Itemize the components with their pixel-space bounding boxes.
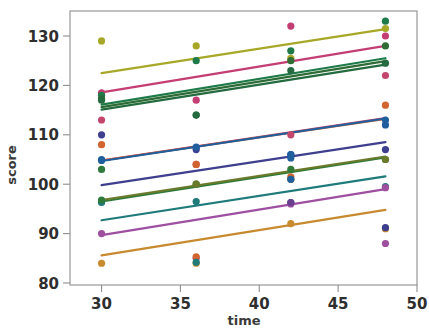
data-point [98, 141, 105, 148]
data-point [287, 199, 294, 206]
data-point [98, 131, 105, 138]
regression-line [102, 65, 386, 110]
data-point [382, 42, 389, 49]
y-tick-label: 110 [28, 126, 59, 144]
regression-lines [102, 29, 386, 255]
y-tick-label: 100 [28, 176, 59, 194]
regression-line [102, 189, 386, 235]
x-tick-label: 40 [249, 295, 270, 313]
data-point [98, 196, 105, 203]
data-point [193, 144, 200, 151]
data-point [382, 224, 389, 231]
data-point [287, 176, 294, 183]
data-point [382, 32, 389, 39]
data-point [382, 240, 389, 247]
data-point [193, 161, 200, 168]
y-tick-label: 130 [28, 28, 59, 46]
data-point [287, 47, 294, 54]
data-point [382, 156, 389, 163]
data-point [98, 260, 105, 267]
data-point [98, 116, 105, 123]
data-point [193, 111, 200, 118]
scatter-plot: 80901001101201303035404550 time score [0, 0, 429, 330]
x-tick-label: 50 [407, 295, 428, 313]
data-point [287, 220, 294, 227]
regression-line [102, 210, 386, 255]
regression-line [102, 58, 386, 104]
data-point [193, 198, 200, 205]
data-point [98, 97, 105, 104]
regression-line [102, 176, 386, 220]
data-point [98, 157, 105, 164]
data-point [382, 184, 389, 191]
data-point [382, 146, 389, 153]
data-point [287, 131, 294, 138]
data-point [193, 97, 200, 104]
x-tick-label: 45 [328, 295, 349, 313]
regression-line [102, 29, 386, 73]
y-tick-label: 80 [38, 275, 59, 293]
data-point [287, 23, 294, 30]
x-axis-title: time [227, 313, 260, 328]
data-point [98, 230, 105, 237]
data-point [287, 67, 294, 74]
y-tick-label: 90 [38, 225, 59, 243]
y-tick-label: 120 [28, 77, 59, 95]
data-point [382, 60, 389, 67]
data-point [287, 166, 294, 173]
data-point [287, 154, 294, 161]
data-point [193, 57, 200, 64]
data-point [193, 42, 200, 49]
data-point [382, 121, 389, 128]
regression-line [102, 118, 386, 160]
y-axis-title: score [4, 145, 19, 185]
data-point [382, 102, 389, 109]
data-point [193, 181, 200, 188]
data-point [193, 259, 200, 266]
data-point [98, 166, 105, 173]
data-point [287, 57, 294, 64]
x-tick-label: 35 [170, 295, 191, 313]
data-point [382, 25, 389, 32]
data-point [382, 72, 389, 79]
axis-tick-labels: 80901001101201303035404550 [28, 28, 428, 314]
data-point [98, 37, 105, 44]
data-point [382, 18, 389, 25]
chart-figure: 80901001101201303035404550 time score [0, 0, 429, 330]
x-tick-label: 30 [91, 295, 112, 313]
